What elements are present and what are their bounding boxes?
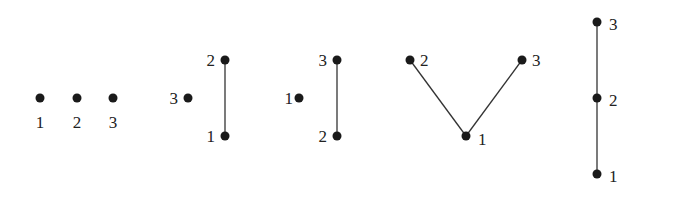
node-label-3: 3 bbox=[170, 89, 179, 108]
diagram-chain-2-3-plus-1: 132 bbox=[285, 51, 342, 146]
diagram-chain-1-2-3: 321 bbox=[593, 15, 618, 186]
node-label-2: 2 bbox=[420, 51, 429, 70]
node-3 bbox=[109, 94, 118, 103]
node-label-2: 2 bbox=[207, 51, 216, 70]
diagram-chain-1-2-plus-3: 321 bbox=[170, 51, 230, 146]
node-2 bbox=[406, 56, 415, 65]
node-label-1: 1 bbox=[609, 167, 618, 186]
node-2 bbox=[593, 94, 602, 103]
poset-diagrams: 123321132231321 bbox=[0, 0, 681, 198]
node-label-3: 3 bbox=[109, 113, 118, 132]
node-3 bbox=[593, 18, 602, 27]
node-label-3: 3 bbox=[609, 15, 618, 34]
node-label-2: 2 bbox=[609, 91, 618, 110]
node-label-1: 1 bbox=[478, 130, 487, 149]
node-label-2: 2 bbox=[73, 113, 82, 132]
node-1 bbox=[462, 132, 471, 141]
node-label-3: 3 bbox=[532, 51, 541, 70]
node-1 bbox=[36, 94, 45, 103]
node-1 bbox=[295, 94, 304, 103]
node-2 bbox=[221, 56, 230, 65]
edge-1-2 bbox=[410, 60, 466, 136]
node-1 bbox=[221, 132, 230, 141]
node-1 bbox=[593, 170, 602, 179]
node-label-1: 1 bbox=[207, 127, 216, 146]
node-2 bbox=[73, 94, 82, 103]
diagram-v-shape: 231 bbox=[406, 51, 541, 149]
node-2 bbox=[333, 132, 342, 141]
node-3 bbox=[333, 56, 342, 65]
node-3 bbox=[518, 56, 527, 65]
diagram-antichain: 123 bbox=[36, 94, 118, 133]
node-label-1: 1 bbox=[36, 113, 45, 132]
edge-1-3 bbox=[466, 60, 522, 136]
node-label-1: 1 bbox=[285, 89, 294, 108]
node-label-2: 2 bbox=[319, 127, 328, 146]
node-3 bbox=[184, 94, 193, 103]
node-label-3: 3 bbox=[319, 51, 328, 70]
